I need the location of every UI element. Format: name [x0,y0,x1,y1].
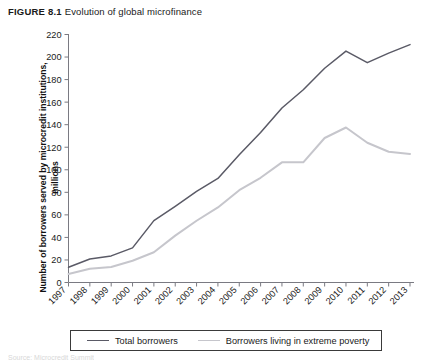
figure-caption: FIGURE 8.1Evolution of global microfinan… [8,6,202,17]
y-tick-label: 220 [46,30,61,40]
y-axis-title: Number of borrowers served by microcredi… [38,53,61,303]
x-tick-label: 2011 [346,285,367,306]
x-tick-label: 2003 [174,285,196,307]
chart-legend: Total borrowers Borrowers living in extr… [70,330,382,351]
series-line-total-borrowers [69,45,411,268]
legend-entry-total-borrowers: Total borrowers [87,336,178,346]
figure-label: FIGURE 8.1 [8,6,62,17]
x-tick-label: 2000 [110,285,132,307]
x-tick-label: 2005 [217,285,239,307]
legend-label-total-borrowers: Total borrowers [115,336,178,346]
legend-entry-extreme-poverty: Borrowers living in extreme poverty [198,336,369,346]
line-chart: Number of borrowers served by microcredi… [0,24,421,324]
figure-title: Evolution of global microfinance [65,6,202,17]
x-tick-label: 2004 [196,285,218,307]
x-tick-label: 2001 [132,285,154,307]
x-tick-label: 2008 [281,285,303,307]
x-tick-label: 2006 [238,285,260,307]
x-tick-label: 2009 [303,285,325,307]
x-tick-label: 2012 [367,285,389,307]
legend-swatch-extreme-poverty [198,340,220,341]
legend-swatch-total-borrowers [87,340,109,341]
x-tick-label: 2002 [153,285,175,307]
x-axis-ticks: 1997199819992000200120022003200420052006… [46,283,410,307]
x-tick-label: 2013 [388,285,410,307]
x-tick-label: 1998 [68,285,90,307]
legend-label-extreme-poverty: Borrowers living in extreme poverty [226,336,369,346]
chart-canvas: 020406080100120140160180200220 199719981… [0,24,421,324]
x-tick-label: 2007 [260,285,282,307]
chart-series-group [69,45,411,274]
y-axis-title-line1: Number of borrowers served by microcredi… [38,114,48,293]
x-tick-label: 2010 [324,285,346,307]
x-tick-label: 1999 [89,285,111,307]
source-note: Source: Microcredit Summit [8,354,94,361]
